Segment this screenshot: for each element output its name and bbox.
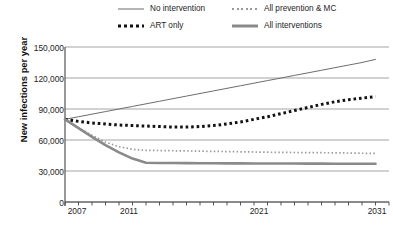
data-series (65, 59, 376, 163)
axis-frame (65, 47, 389, 206)
series-line-art-only (65, 97, 376, 127)
figure-hiv-projection-chart: No intervention All prevention & MC ART … (0, 0, 393, 235)
gridlines (65, 47, 389, 202)
series-line-no-intervention (65, 59, 376, 119)
plot-area (0, 0, 393, 235)
